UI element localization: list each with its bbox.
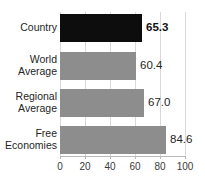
x-tick-60	[135, 156, 136, 159]
category-label-world-average: World Average	[0, 54, 57, 77]
chart-title-cropped	[0, 0, 205, 7]
x-tick-0	[60, 156, 61, 159]
value-label-regional-average: 67.0	[148, 96, 170, 108]
bar-free-economies	[60, 126, 166, 154]
plot-area	[60, 12, 185, 156]
value-label-world-average: 60.4	[140, 59, 162, 71]
x-tick-label-100: 100	[177, 161, 194, 172]
x-tick-label-0: 0	[57, 161, 63, 172]
x-tick-100	[185, 156, 186, 159]
x-tick-80	[160, 156, 161, 159]
x-tick-label-60: 60	[129, 161, 140, 172]
x-axis-line	[60, 156, 186, 157]
bar-regional-average	[60, 89, 144, 117]
category-label-regional-average: Regional Average	[0, 91, 57, 114]
bar-world-average	[60, 52, 136, 80]
bar-country	[60, 14, 142, 42]
x-tick-40	[110, 156, 111, 159]
category-label-country: Country	[0, 22, 57, 34]
x-tick-label-80: 80	[154, 161, 165, 172]
value-label-free-economies: 84.6	[170, 133, 192, 145]
bar-chart: Country World Average Regional Average F…	[0, 0, 205, 182]
x-tick-label-40: 40	[104, 161, 115, 172]
category-label-free-economies: Free Economies	[0, 128, 57, 151]
x-tick-label-20: 20	[79, 161, 90, 172]
value-label-country: 65.3	[146, 21, 168, 33]
x-tick-20	[85, 156, 86, 159]
